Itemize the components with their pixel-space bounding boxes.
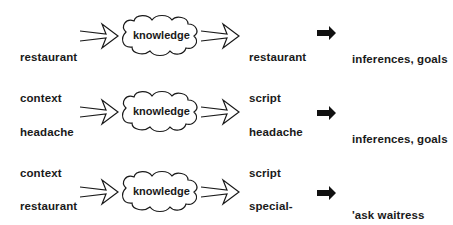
row-3-input: restaurant & headache context (20, 173, 86, 225)
script-line: special- (249, 200, 295, 214)
hollow-arrow-icon (80, 24, 118, 48)
input-line: headache (20, 126, 74, 140)
solid-arrow-icon (317, 106, 336, 120)
input-line: restaurant (20, 51, 77, 65)
hollow-arrow-icon (201, 100, 239, 124)
row-2-output: inferences, goals (352, 106, 448, 160)
script-line: restaurant (249, 51, 306, 65)
solid-arrow-icon (317, 26, 336, 40)
output-line: inferences, goals (352, 133, 448, 147)
input-line: restaurant (20, 200, 86, 214)
row-1-process-label: knowledge (133, 29, 190, 41)
hollow-arrow-icon (201, 24, 239, 48)
output-line: 'ask waitress (352, 209, 424, 223)
row-3-script: special- purpose script (249, 173, 295, 225)
row-3-output: 'ask waitress for aspirin' (352, 182, 424, 225)
output-line: inferences, goals (352, 53, 448, 67)
row-2-process-label: knowledge (133, 105, 190, 117)
solid-arrow-icon (317, 186, 336, 200)
row-1-output: inferences, goals (352, 26, 448, 80)
hollow-arrow-icon (80, 180, 118, 204)
hollow-arrow-icon (80, 100, 118, 124)
hollow-arrow-icon (201, 180, 239, 204)
row-3-process-label: knowledge (133, 185, 190, 197)
script-line: headache (249, 126, 303, 140)
